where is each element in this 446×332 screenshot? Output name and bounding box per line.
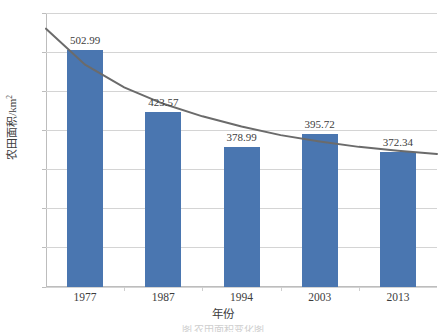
- bar-value-label: 372.34: [358, 137, 438, 148]
- x-tick-label: 1987: [123, 292, 203, 304]
- plot-area: [46, 13, 437, 287]
- x-tick-label: 1977: [45, 292, 125, 304]
- x-tick-label: 2003: [280, 292, 360, 304]
- chart-container: 农田面积/km2 200250300350400450500550 197719…: [0, 0, 446, 332]
- y-axis-title: 农田面积/km2: [4, 72, 19, 182]
- bar-value-label: 502.99: [45, 35, 125, 46]
- x-axis-title: 年份: [0, 308, 446, 320]
- x-tick-mark: [124, 287, 125, 291]
- bar-value-label: 395.72: [280, 119, 360, 130]
- bar-value-label: 378.99: [202, 132, 282, 143]
- x-tick-label: 1994: [202, 292, 282, 304]
- figure-caption: 图 农田面积变化图: [0, 325, 446, 332]
- x-tick-label: 2013: [358, 292, 438, 304]
- x-tick-mark: [359, 287, 360, 291]
- x-tick-mark: [202, 287, 203, 291]
- trendline: [46, 13, 437, 287]
- x-tick-mark: [281, 287, 282, 291]
- bar-value-label: 423.57: [123, 97, 203, 108]
